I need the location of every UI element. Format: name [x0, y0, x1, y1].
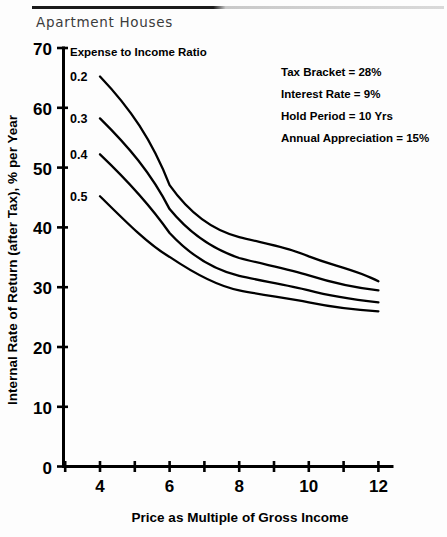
- x-tick-label: 10: [299, 477, 318, 496]
- y-tick-label: 60: [33, 100, 52, 119]
- legend-title: Expense to Income Ratio: [70, 46, 207, 58]
- y-tick-label: 10: [33, 399, 52, 418]
- annotation-annual-appreciation: Annual Appreciation = 15%: [281, 132, 429, 144]
- curve-label-0-5: 0.5: [70, 190, 87, 204]
- y-tick-label: 30: [33, 279, 52, 298]
- annotation-interest-rate: Interest Rate = 9%: [281, 88, 380, 100]
- x-axis-tick-labels: 4 6 8 10 12: [95, 477, 388, 496]
- x-tick-label: 8: [234, 477, 243, 496]
- curve-label-0-3: 0.3: [70, 112, 87, 126]
- curve-label-0-2: 0.2: [70, 70, 87, 84]
- y-tick-label: 50: [33, 160, 52, 179]
- y-axis-title: Internal Rate of Return (after Tax), % p…: [5, 114, 20, 405]
- y-tick-label: 20: [33, 339, 52, 358]
- y-tick-label: 40: [33, 219, 52, 238]
- y-tick-label: 70: [33, 40, 52, 59]
- y-axis-tick-labels: 70 60 50 40 30 20 10 0: [33, 40, 52, 478]
- irr-line-chart: 70 60 50 40 30 20 10 0 4 6 8 10: [0, 0, 447, 537]
- x-axis-title: Price as Multiple of Gross Income: [132, 510, 349, 525]
- page-canvas: Apartment Houses 70 60 50 40 30 20 10 0: [0, 0, 447, 537]
- curve-labels: 0.2 0.3 0.4 0.5: [70, 70, 87, 204]
- x-tick-label: 4: [95, 477, 105, 496]
- annotation-tax-bracket: Tax Bracket = 28%: [281, 66, 381, 78]
- annotation-hold-period: Hold Period = 10 Yrs: [281, 110, 393, 122]
- x-tick-label: 6: [165, 477, 174, 496]
- curve-ratio-0-4: [100, 154, 378, 302]
- curve-ratio-0-2: [100, 77, 378, 282]
- assumptions-annotation-block: Tax Bracket = 28% Interest Rate = 9% Hol…: [281, 66, 429, 144]
- x-tick-label: 12: [369, 477, 388, 496]
- curve-label-0-4: 0.4: [70, 148, 87, 162]
- y-tick-label: 0: [43, 459, 52, 478]
- curve-ratio-0-5: [100, 196, 378, 311]
